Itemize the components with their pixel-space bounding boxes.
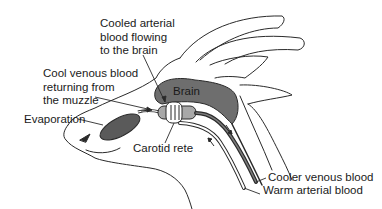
leader-warm-arterial — [244, 188, 260, 194]
goat-head-diagram: Cooled arterial blood flowing to the bra… — [0, 0, 382, 209]
ear-lower — [240, 85, 292, 104]
label-carotid-rete: Carotid rete — [133, 142, 193, 156]
label-cooled-arterial: Cooled arterial blood flowing to the bra… — [100, 17, 175, 58]
nasal-surface — [96, 109, 143, 146]
venous-vessel — [196, 113, 256, 182]
carotid-rete — [166, 102, 182, 123]
label-line: Cool venous blood — [43, 67, 138, 81]
label-cooler-venous: Cooler venous blood — [268, 171, 374, 185]
label-line: returning from — [43, 81, 138, 95]
leader-carotid-rete — [165, 123, 174, 143]
label-warm-arterial: Warm arterial blood — [263, 184, 363, 198]
label-line: blood flowing — [100, 31, 175, 45]
ear-upper — [210, 56, 268, 78]
leader-cooled-arterial — [143, 55, 165, 102]
label-line: to the brain — [100, 44, 175, 58]
mouth — [86, 148, 120, 153]
label-line: the muzzle — [43, 94, 138, 108]
label-line: Cooled arterial — [100, 17, 175, 31]
label-brain: Brain — [173, 85, 200, 99]
horn-outer — [180, 16, 284, 60]
label-evaporation: Evaporation — [24, 113, 85, 127]
label-cool-venous: Cool venous blood returning from the muz… — [43, 67, 138, 108]
nostril — [80, 134, 90, 142]
